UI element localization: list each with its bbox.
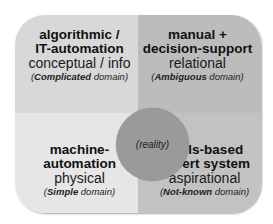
quadrant-domain: (Complicated domain): [31, 71, 128, 83]
reality-label: (reality): [136, 139, 169, 150]
reality-circle: (reality): [116, 108, 189, 181]
quadrant-title-line2: automation: [43, 157, 116, 171]
quadrant-subtitle: aspirational: [169, 171, 241, 186]
quadrant-title-line1: algorithmic /: [39, 28, 119, 42]
quadrant-title-line2: IT-automation: [35, 42, 124, 56]
quadrant-domain: (Ambiguous domain): [151, 71, 243, 83]
quadrant-subtitle: relational: [169, 56, 226, 71]
quadrant-domain: (Simple domain): [44, 186, 115, 198]
quadrant-diagram: algorithmic / IT-automation conceptual /…: [15, 15, 261, 213]
quadrant-subtitle: physical: [54, 171, 105, 186]
quadrant-domain: (Not-known domain): [160, 186, 249, 198]
quadrant-title-line1: manual +: [168, 28, 227, 42]
quadrant-title-line2: decision-support: [143, 42, 253, 56]
quadrant-complicated: algorithmic / IT-automation conceptual /…: [15, 15, 138, 113]
quadrant-title-line1: machine-: [50, 143, 109, 157]
quadrant-ambiguous: manual + decision-support relational (Am…: [138, 15, 261, 113]
quadrant-subtitle: conceptual / info: [29, 56, 131, 71]
